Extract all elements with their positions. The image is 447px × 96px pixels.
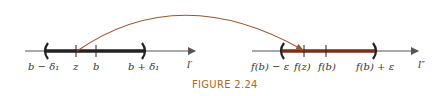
label-b: b bbox=[93, 61, 99, 72]
axis-label-l-prime: l′ bbox=[187, 59, 193, 70]
label-fb-plus-epsilon: f(b) + ε bbox=[355, 61, 394, 72]
axis-label-l-double-prime: l″ bbox=[418, 59, 425, 70]
figure-diagram: b − δ₁ z b b + δ₁ l′ f(b) − ε f(z) f(b) … bbox=[0, 0, 447, 96]
label-fz: f(z) bbox=[293, 61, 311, 72]
label-fb: f(b) bbox=[317, 61, 336, 72]
label-z: z bbox=[72, 61, 79, 72]
label-b-plus-delta: b + δ₁ bbox=[128, 61, 159, 72]
mapping-arrow-arc bbox=[77, 15, 303, 51]
right-number-line: f(b) − ε f(z) f(b) f(b) + ε l″ bbox=[250, 43, 425, 72]
figure-caption: FIGURE 2.24 bbox=[192, 79, 258, 90]
label-fb-minus-epsilon: f(b) − ε bbox=[250, 61, 289, 72]
left-number-line: b − δ₁ z b b + δ₁ l′ bbox=[25, 43, 195, 72]
label-b-minus-delta: b − δ₁ bbox=[28, 61, 59, 72]
